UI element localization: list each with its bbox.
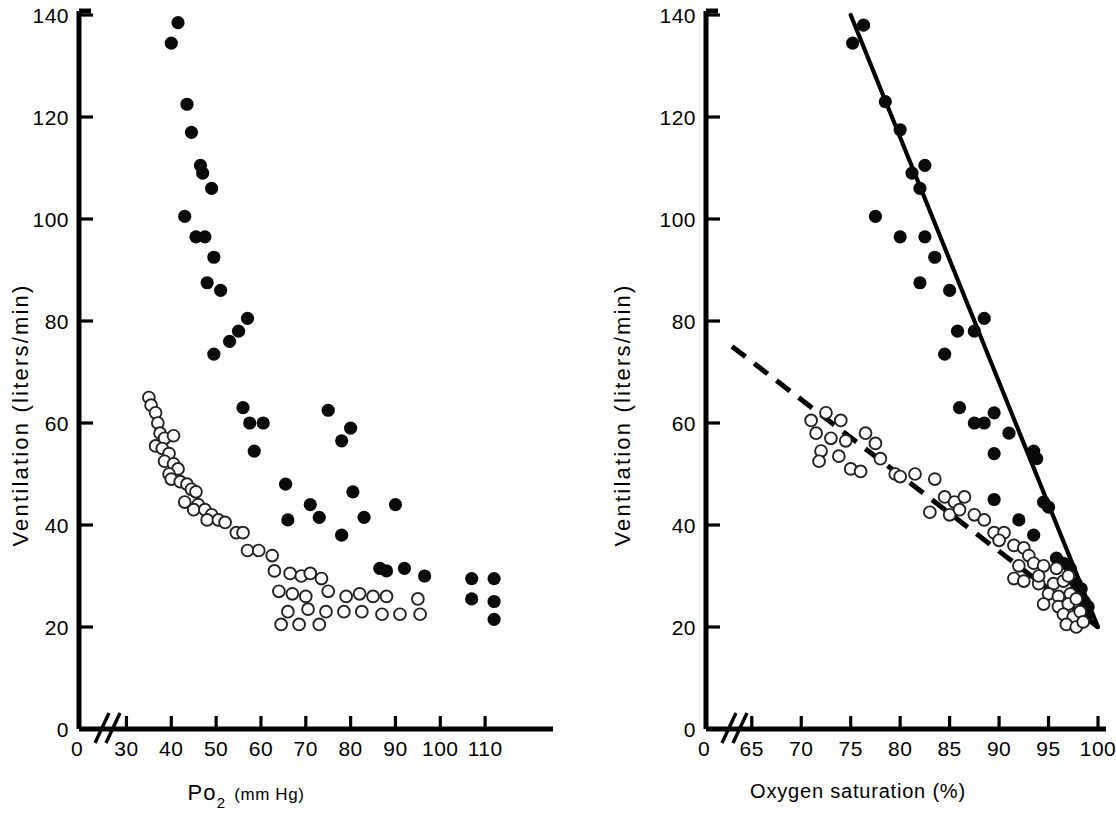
- data-point-open: [394, 608, 406, 620]
- data-point-open: [293, 619, 305, 631]
- data-points-left: [143, 16, 501, 630]
- data-point-open: [269, 565, 281, 577]
- data-point-filled: [281, 513, 294, 526]
- data-point-open: [978, 514, 990, 526]
- data-point-open: [201, 514, 213, 526]
- data-point-filled: [201, 276, 214, 289]
- data-point-filled: [465, 572, 478, 585]
- x-tick-label: 75: [839, 737, 863, 760]
- x-tick-label: 100: [1080, 737, 1116, 760]
- data-point-filled: [207, 251, 220, 264]
- data-point-open: [253, 545, 265, 557]
- data-point-filled: [232, 325, 245, 338]
- data-point-filled: [357, 511, 370, 524]
- data-point-filled: [196, 167, 209, 180]
- data-point-filled: [398, 562, 411, 575]
- x-tick-label: 80: [888, 737, 912, 760]
- data-point-open: [813, 455, 825, 467]
- data-point-open: [835, 415, 847, 427]
- data-point-filled: [913, 276, 926, 289]
- y-axis-title-left-text: Ventilation (liters/min): [8, 283, 33, 546]
- data-point-filled: [1042, 501, 1055, 514]
- chart-panel-po2: Ventilation (liters/min) 304050607080901…: [0, 0, 558, 814]
- data-point-filled: [236, 401, 249, 414]
- chart-panel-saturation: Ventilation (liters/min) 657075808590951…: [558, 0, 1116, 814]
- data-point-filled: [1012, 513, 1025, 526]
- x-tick-label: 70: [789, 737, 813, 760]
- y-tick-label: 20: [672, 616, 696, 639]
- y-tick-label: 100: [32, 208, 69, 231]
- figure-root: Ventilation (liters/min) 304050607080901…: [0, 0, 1116, 814]
- y-ticks-left: 020406080100120140: [32, 4, 93, 741]
- data-point-open: [356, 606, 368, 618]
- data-point-open: [302, 603, 314, 615]
- x-axis-title-right: Oxygen saturation (%): [750, 780, 966, 802]
- data-point-open: [894, 471, 906, 483]
- y-tick-label: 60: [45, 412, 69, 435]
- data-point-filled: [214, 284, 227, 297]
- x-tick-label: 65: [740, 737, 764, 760]
- data-point-open: [304, 568, 316, 580]
- data-point-open: [381, 591, 393, 603]
- data-point-open: [313, 619, 325, 631]
- data-point-open: [959, 491, 971, 503]
- data-point-open: [340, 591, 352, 603]
- data-point-filled: [846, 36, 859, 49]
- data-point-open: [188, 504, 200, 516]
- data-point-filled: [913, 182, 926, 195]
- data-point-open: [286, 588, 298, 600]
- data-point-filled: [928, 251, 941, 264]
- y-tick-label: 40: [45, 514, 69, 537]
- data-point-filled: [304, 498, 317, 511]
- data-point-filled: [487, 595, 500, 608]
- x-tick-label: 80: [338, 737, 362, 760]
- y-tick-label: 140: [659, 4, 696, 27]
- data-point-open: [1018, 575, 1030, 587]
- data-point-filled: [918, 159, 931, 172]
- data-point-open: [954, 504, 966, 516]
- data-point-filled: [243, 416, 256, 429]
- y-tick-label: 120: [32, 106, 69, 129]
- data-point-open: [237, 527, 249, 539]
- data-point-open: [870, 438, 882, 450]
- x-tick-label: 110: [468, 737, 503, 760]
- data-point-open: [909, 468, 921, 480]
- x-axis-title-right-text: Oxygen saturation (%): [750, 780, 966, 802]
- data-point-filled: [487, 572, 500, 585]
- data-point-filled: [465, 592, 478, 605]
- data-point-open: [242, 545, 254, 557]
- data-point-filled: [869, 210, 882, 223]
- data-point-open: [840, 435, 852, 447]
- data-point-filled: [879, 95, 892, 108]
- y-tick-label: 40: [672, 514, 696, 537]
- y-axis-title-left: Ventilation (liters/min): [8, 283, 33, 546]
- data-point-filled: [951, 325, 964, 338]
- data-point-open: [266, 550, 278, 562]
- data-point-filled: [257, 416, 270, 429]
- data-point-open: [354, 588, 366, 600]
- data-point-open: [322, 585, 334, 597]
- data-point-filled: [943, 284, 956, 297]
- data-point-filled: [207, 348, 220, 361]
- x-tick-label: 95: [1036, 737, 1060, 760]
- data-point-open: [273, 585, 285, 597]
- axes-right: [706, 11, 1106, 743]
- data-point-filled: [953, 401, 966, 414]
- chart-svg-saturation: Ventilation (liters/min) 657075808590951…: [558, 0, 1116, 814]
- data-point-filled: [978, 312, 991, 325]
- data-point-open: [275, 619, 287, 631]
- data-point-filled: [313, 511, 326, 524]
- data-point-filled: [223, 335, 236, 348]
- y-tick-label: 0: [684, 718, 696, 741]
- y-tick-label: 140: [32, 4, 69, 27]
- data-point-open: [820, 407, 832, 419]
- x-tick-label: 40: [159, 737, 183, 760]
- data-point-open: [993, 534, 1005, 546]
- data-points-right: [805, 19, 1094, 633]
- data-point-filled: [248, 444, 261, 457]
- x-tick-label: 85: [937, 737, 961, 760]
- data-point-open: [929, 473, 941, 485]
- data-point-filled: [198, 230, 211, 243]
- data-point-filled: [938, 348, 951, 361]
- y-axis-title-right: Ventilation (liters/min): [610, 283, 635, 546]
